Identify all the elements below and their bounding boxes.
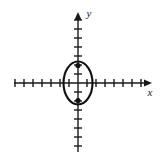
y-axis-label: y	[86, 7, 92, 19]
x-axis-label: x	[147, 86, 153, 98]
upper-focus-dot	[75, 63, 80, 68]
coordinate-plane-graph: x y	[0, 0, 162, 161]
figure-container: x y	[0, 0, 162, 161]
lower-focus-dot	[75, 98, 80, 103]
